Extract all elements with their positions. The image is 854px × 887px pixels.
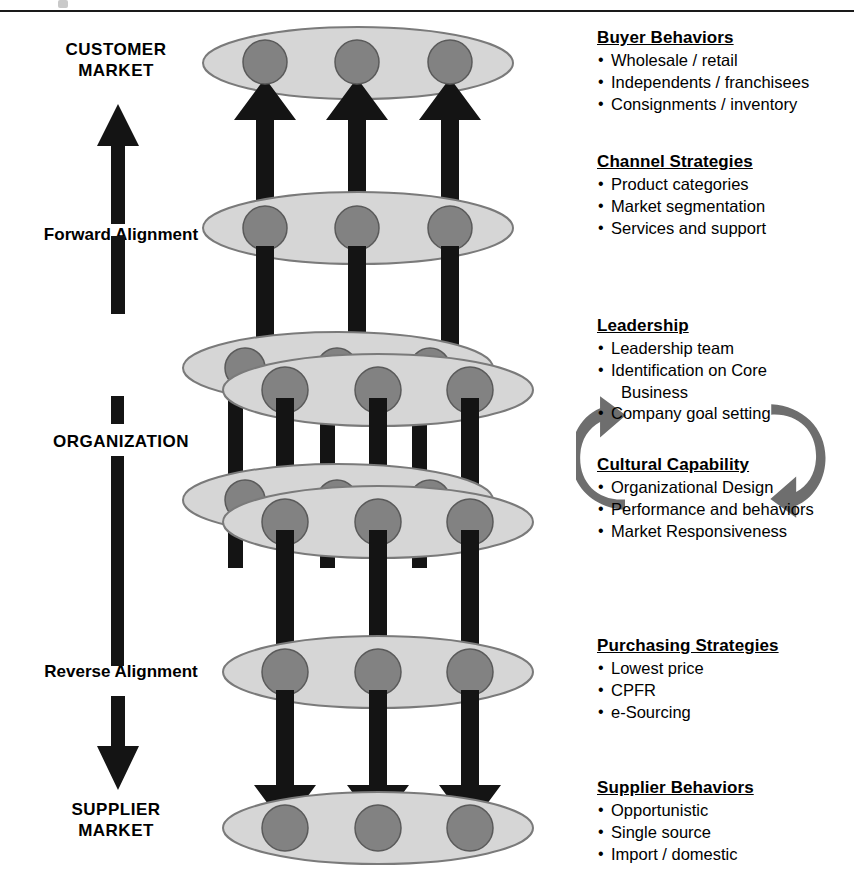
panel-heading: Cultural Capability bbox=[597, 455, 854, 475]
panel-supplier-behaviors: Supplier Behaviors Opportunistic Single … bbox=[597, 778, 854, 865]
panel-channel-strategies: Channel Strategies Product categories Ma… bbox=[597, 152, 854, 239]
alignment-stage bbox=[0, 0, 600, 887]
panel-heading: Purchasing Strategies bbox=[597, 636, 854, 656]
list-item: Product categories bbox=[597, 174, 854, 196]
panel-buyer-behaviors: Buyer Behaviors Wholesale / retail Indep… bbox=[597, 28, 854, 115]
list-item: Performance and behaviors bbox=[597, 499, 854, 521]
diagram-page: CUSTOMER MARKET Forward Alignment ORGANI… bbox=[0, 0, 854, 887]
panel-heading: Buyer Behaviors bbox=[597, 28, 854, 48]
panel-list: Product categories Market segmentation S… bbox=[597, 174, 854, 239]
panel-list: Opportunistic Single source Import / dom… bbox=[597, 800, 854, 865]
panel-list: Organizational Design Performance and be… bbox=[597, 477, 854, 542]
panel-list: Leadership team Identification on Core B… bbox=[597, 338, 854, 425]
list-item: Single source bbox=[597, 822, 854, 844]
list-item: Independents / franchisees bbox=[597, 72, 854, 94]
list-item: Organizational Design bbox=[597, 477, 854, 499]
list-item: Lowest price bbox=[597, 658, 854, 680]
supplier-market-layer bbox=[223, 792, 533, 864]
list-item: e-Sourcing bbox=[597, 702, 854, 724]
list-item: Leadership team bbox=[597, 338, 854, 360]
panel-purchasing-strategies: Purchasing Strategies Lowest price CPFR … bbox=[597, 636, 854, 723]
panel-heading: Supplier Behaviors bbox=[597, 778, 854, 798]
panel-heading: Channel Strategies bbox=[597, 152, 854, 172]
list-item: CPFR bbox=[597, 680, 854, 702]
list-item: Consignments / inventory bbox=[597, 94, 854, 116]
list-item: Services and support bbox=[597, 218, 854, 240]
list-item: Identification on Core bbox=[597, 360, 854, 382]
panel-heading: Leadership bbox=[597, 316, 854, 336]
panel-list: Lowest price CPFR e-Sourcing bbox=[597, 658, 854, 723]
list-item: Opportunistic bbox=[597, 800, 854, 822]
list-item: Market Responsiveness bbox=[597, 521, 854, 543]
list-item: Import / domestic bbox=[597, 844, 854, 866]
panel-leadership: Leadership Leadership team Identificatio… bbox=[597, 316, 854, 425]
panel-list: Wholesale / retail Independents / franch… bbox=[597, 50, 854, 115]
customer-market-nodes bbox=[243, 40, 472, 84]
list-item: Market segmentation bbox=[597, 196, 854, 218]
list-item: Wholesale / retail bbox=[597, 50, 854, 72]
panel-cultural-capability: Cultural Capability Organizational Desig… bbox=[597, 455, 854, 542]
list-item: Company goal setting bbox=[597, 403, 854, 425]
list-item-continuation: Business bbox=[597, 382, 854, 404]
